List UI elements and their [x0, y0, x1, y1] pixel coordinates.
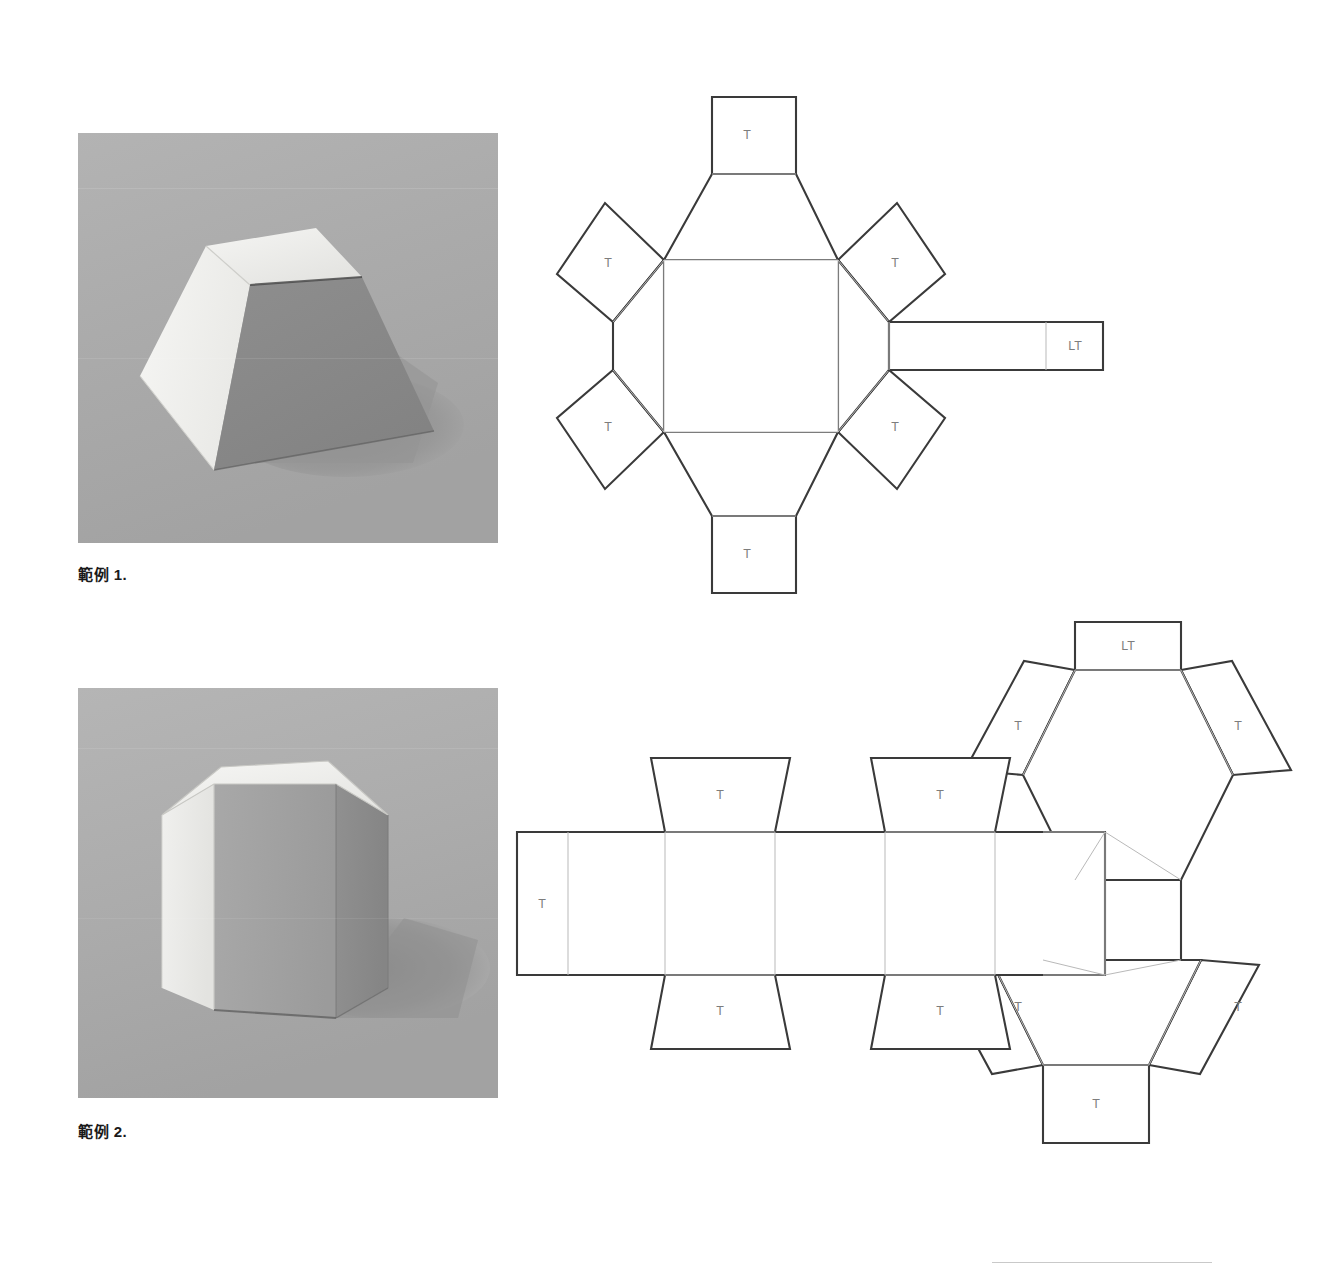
- upper-hex-tab-right-label: T: [1234, 719, 1242, 733]
- tab-label-top: T: [743, 128, 751, 142]
- face-bottom-trapezoid: [664, 432, 838, 516]
- lower-hex-tab-right-label: T: [1234, 1000, 1242, 1014]
- example-2-net: T T T T T LT T T T T T: [505, 605, 1245, 1215]
- strip-body: [517, 832, 1105, 975]
- example-1-net: T T T T T T LT: [505, 75, 1115, 615]
- lower-hex-tab-left-label: T: [1014, 1000, 1022, 1014]
- tab-label-lower-right: T: [891, 420, 899, 434]
- example-1-caption-text: 範例 1.: [78, 566, 127, 583]
- page-root: 範例 1.: [0, 0, 1327, 1274]
- prism-left-face: [162, 784, 214, 1010]
- strip-tab-bottom-2-label: T: [936, 1004, 944, 1018]
- prism-front-face: [214, 784, 336, 1018]
- strip-tab-bottom-1-label: T: [716, 1004, 724, 1018]
- face-top-trapezoid: [664, 174, 838, 260]
- lower-hex-bottom-tab-label: T: [1092, 1097, 1100, 1111]
- tab-bottom-shape: [712, 516, 796, 593]
- example-2-caption: 範例 2.: [78, 1120, 127, 1141]
- lid-tab-label: LT: [1068, 339, 1082, 353]
- tab-top-shape: [712, 97, 796, 174]
- face-center-square: [664, 260, 838, 432]
- upper-hex-lid-tab-label: LT: [1121, 639, 1135, 653]
- bottom-hairline: [992, 1262, 1212, 1263]
- example-2-photo: [78, 688, 498, 1098]
- tab-label-lower-left: T: [604, 420, 612, 434]
- strip-left-tab-label: T: [538, 897, 546, 911]
- prism-right-face: [336, 784, 388, 1018]
- tab-label-upper-right: T: [891, 256, 899, 270]
- upper-hex-tab-left-label: T: [1014, 719, 1022, 733]
- example-1-caption: 範例 1.: [78, 563, 127, 584]
- example-1-photo: [78, 133, 498, 543]
- strip-tab-top-2-label: T: [936, 788, 944, 802]
- strip-tab-top-1-label: T: [716, 788, 724, 802]
- tab-label-bottom: T: [743, 547, 751, 561]
- example-2-caption-text: 範例 2.: [78, 1123, 127, 1140]
- tab-label-upper-left: T: [604, 256, 612, 270]
